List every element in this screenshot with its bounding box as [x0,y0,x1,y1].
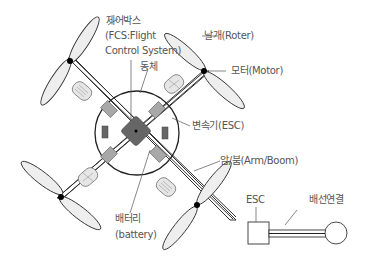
battery-label: 배터리 [115,213,141,225]
control-box-label-system: Control System) [105,45,181,57]
control-box-label: 제어박스 [106,15,141,27]
motor-label: 모터(Motor) [231,65,283,77]
esc-label: 변속기(ESC) [192,120,244,132]
rotor-label: 날개(Roter) [204,30,254,42]
esc-wiring-inset [248,207,347,244]
inset-wiring-label: 배선연결 [309,194,344,206]
inset-esc-label: ESC [246,194,265,206]
body-label: 동체 [140,61,157,73]
arm-boom-label: 암/붐(Arm/Boom) [220,155,298,167]
quadcopter-diagram [0,0,368,265]
battery-label-en: (battery) [115,229,157,241]
control-box-label-fcs: (FCS:Flight [105,30,156,42]
